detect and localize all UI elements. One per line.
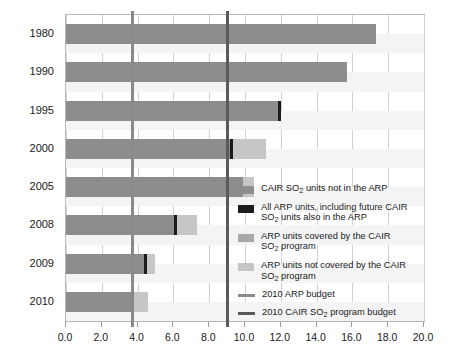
legend-item-label: CAIR SO2 units not in the ARP <box>261 183 388 195</box>
bar-segment[interactable] <box>66 24 376 44</box>
legend-color-swatch <box>238 263 254 271</box>
legend-item[interactable]: CAIR SO2 units not in the ARP <box>238 183 444 195</box>
arp-units-marker <box>278 101 281 121</box>
legend-text-line: SO2 program <box>261 271 406 283</box>
bar-segment[interactable] <box>132 292 148 312</box>
y-axis-label-1995: 1995 <box>30 104 54 116</box>
legend-item[interactable]: ARP units covered by the CAIRSO2 program <box>238 231 444 253</box>
x-axis-label-20.0: 20.0 <box>413 331 433 343</box>
subscript: 2 <box>274 215 278 224</box>
bar-segment[interactable] <box>66 292 132 312</box>
y-axis-label-2009: 2009 <box>30 257 54 269</box>
legend-item[interactable]: 2010 CAIR SO2 program budget <box>238 307 444 319</box>
so2-emissions-stacked-bar-chart: 19801990199520002005200820092010 0.02.04… <box>0 0 451 359</box>
bar-segment[interactable] <box>66 139 231 159</box>
bar-segment[interactable] <box>175 215 196 235</box>
legend-text-line: 2010 ARP budget <box>262 289 335 300</box>
subscript: 2 <box>274 274 278 283</box>
arp-units-marker <box>230 139 233 159</box>
subscript: 2 <box>324 310 328 319</box>
y-axis-label-2000: 2000 <box>30 142 54 154</box>
x-axis-label-8.0: 8.0 <box>201 331 216 343</box>
subscript: 2 <box>299 186 303 195</box>
x-axis-label-6.0: 6.0 <box>165 331 180 343</box>
bar-row-1990[interactable] <box>66 62 424 82</box>
bar-segment[interactable] <box>66 215 175 235</box>
legend-text-line: CAIR SO2 units not in the ARP <box>261 183 388 195</box>
x-axis-tick-labels: 0.02.04.06.08.010.012.014.016.018.020.0 <box>0 325 451 345</box>
y-axis-label-2005: 2005 <box>30 180 54 192</box>
x-axis-label-10.0: 10.0 <box>234 331 254 343</box>
chart-legend: CAIR SO2 units not in the ARPAll ARP uni… <box>238 183 444 325</box>
legend-text-line: SO2 units also in the ARP <box>261 212 408 224</box>
legend-text-line: 2010 CAIR SO2 program budget <box>262 307 396 319</box>
legend-item[interactable]: 2010 ARP budget <box>238 289 444 300</box>
bar-row-1995[interactable] <box>66 101 424 121</box>
legend-text-line: All ARP units, including future CAIR <box>261 202 408 213</box>
y-axis-label-2008: 2008 <box>30 218 54 230</box>
x-axis-label-0.0: 0.0 <box>58 331 73 343</box>
x-axis-label-12.0: 12.0 <box>270 331 290 343</box>
subscript: 2 <box>274 244 278 253</box>
legend-item-label: All ARP units, including future CAIRSO2 … <box>261 202 408 224</box>
legend-item-label: ARP units not covered by the CAIRSO2 pro… <box>261 260 406 282</box>
legend-text-line: ARP units covered by the CAIR <box>261 231 391 242</box>
y-axis-label-1980: 1980 <box>30 27 54 39</box>
y-axis-label-2010: 2010 <box>30 295 54 307</box>
x-axis-label-4.0: 4.0 <box>129 331 144 343</box>
x-axis-label-2.0: 2.0 <box>93 331 108 343</box>
bar-segment[interactable] <box>231 139 267 159</box>
x-axis-label-18.0: 18.0 <box>377 331 397 343</box>
legend-color-swatch <box>238 186 254 194</box>
legend-line-swatch <box>238 294 255 297</box>
y-axis-label-1990: 1990 <box>30 65 54 77</box>
legend-item-label: 2010 ARP budget <box>262 289 335 300</box>
bar-row-1980[interactable] <box>66 24 424 44</box>
arp-units-marker <box>144 254 147 274</box>
legend-text-line: SO2 program <box>261 241 391 253</box>
x-axis-label-14.0: 14.0 <box>305 331 325 343</box>
y-axis-category-labels: 19801990199520002005200820092010 <box>0 14 59 322</box>
legend-item[interactable]: All ARP units, including future CAIRSO2 … <box>238 202 444 224</box>
reference-line <box>226 11 229 327</box>
bar-segment[interactable] <box>66 62 347 82</box>
x-axis-label-16.0: 16.0 <box>341 331 361 343</box>
legend-item[interactable]: ARP units not covered by the CAIRSO2 pro… <box>238 260 444 282</box>
legend-item-label: ARP units covered by the CAIRSO2 program <box>261 231 391 253</box>
bar-segment[interactable] <box>66 101 279 121</box>
legend-color-swatch <box>238 205 254 213</box>
legend-text-line: ARP units not covered by the CAIR <box>261 260 406 271</box>
legend-line-swatch <box>238 312 255 315</box>
reference-line <box>131 11 134 327</box>
legend-item-label: 2010 CAIR SO2 program budget <box>262 307 396 319</box>
arp-units-marker <box>174 215 177 235</box>
bar-row-2000[interactable] <box>66 139 424 159</box>
bar-segment[interactable] <box>66 177 243 197</box>
legend-color-swatch <box>238 234 254 242</box>
